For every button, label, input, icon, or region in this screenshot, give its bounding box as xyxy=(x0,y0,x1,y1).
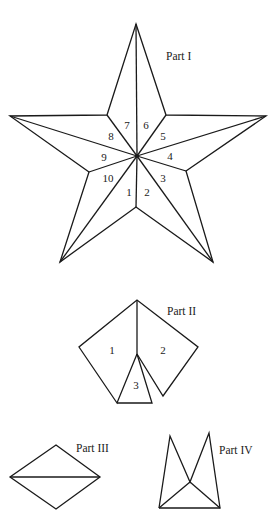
part-4: Part IV xyxy=(159,433,253,508)
segment-label: 5 xyxy=(160,130,166,142)
segment-label: 3 xyxy=(160,172,166,184)
part-3: Part III xyxy=(10,442,109,509)
segment-label: 9 xyxy=(101,151,107,163)
star-pattern-diagram: Part I 1 2 3 4 5 6 7 8 9 10 Part II 1 2 … xyxy=(0,0,276,530)
segment-label: 6 xyxy=(143,119,149,131)
part-2: Part II 1 2 3 xyxy=(79,300,198,403)
segment-label: 1 xyxy=(109,344,115,356)
star-outline xyxy=(10,24,266,262)
segment-label: 4 xyxy=(167,150,173,162)
part-2-label: Part II xyxy=(167,305,196,317)
part-4-label: Part IV xyxy=(219,444,253,456)
part-1-star: Part I 1 2 3 4 5 6 7 8 9 10 xyxy=(10,24,266,262)
part-1-label: Part I xyxy=(166,50,191,62)
segment-label: 3 xyxy=(133,379,139,391)
segment-label: 2 xyxy=(144,186,150,198)
segment-label: 8 xyxy=(108,130,114,142)
segment-label: 2 xyxy=(160,344,166,356)
segment-label: 10 xyxy=(103,172,115,184)
part-3-label: Part III xyxy=(76,442,109,454)
star-center-point xyxy=(135,154,139,158)
segment-label: 7 xyxy=(124,119,130,131)
segment-label: 1 xyxy=(126,186,132,198)
